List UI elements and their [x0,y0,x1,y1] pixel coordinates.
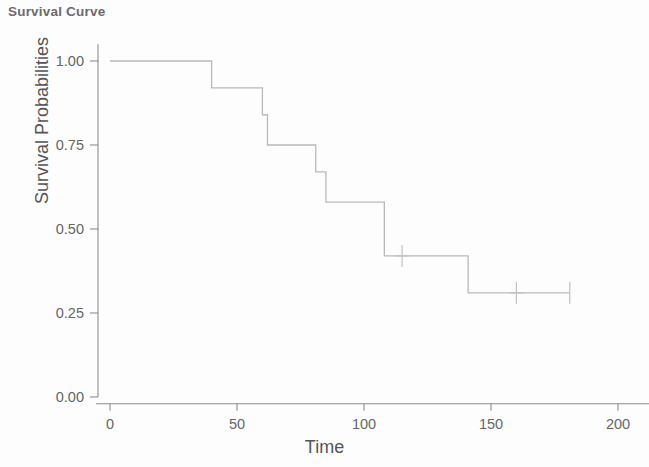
x-tick-label: 0 [106,416,114,432]
x-tick-label: 200 [606,416,630,432]
y-tick-label: 0.25 [56,305,84,321]
y-axis-ticks: 0.000.250.500.751.00 [56,53,98,405]
y-tick-label: 1.00 [56,53,84,69]
survival-step-line [110,61,570,293]
y-tick-label: 0.50 [56,221,84,237]
censoring-marks [395,245,570,304]
censor-plus-icon [509,282,523,304]
x-axis-ticks: 050100150200 [106,404,630,432]
censor-plus-icon [395,245,409,267]
y-tick-label: 0.00 [56,389,84,405]
x-tick-label: 100 [352,416,376,432]
x-tick-label: 50 [229,416,245,432]
y-tick-label: 0.75 [56,137,84,153]
plot-area: 0.000.250.500.751.00 050100150200 [0,0,649,467]
x-tick-label: 150 [479,416,503,432]
survival-curve-chart: Survival Curve Survival Probabilities Ti… [0,0,649,467]
